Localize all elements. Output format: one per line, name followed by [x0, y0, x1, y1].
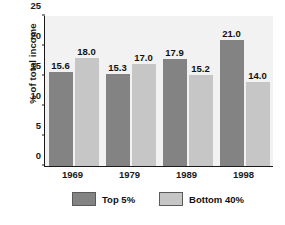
- x-tick-label: 1979: [105, 168, 155, 184]
- bar-wrapper: 21.0: [220, 16, 244, 166]
- plot-area: 0510152025 15.618.015.317.017.915.221.01…: [44, 16, 273, 167]
- legend-item[interactable]: Top 5%: [72, 192, 135, 206]
- bar-value-label: 15.3: [108, 62, 127, 73]
- bar-wrapper: 15.6: [49, 16, 73, 166]
- bar[interactable]: [75, 58, 99, 166]
- bar-group: 17.915.2: [163, 16, 213, 166]
- bar-wrapper: 17.0: [132, 16, 156, 166]
- bar-wrapper: 14.0: [246, 16, 270, 166]
- bar[interactable]: [163, 59, 187, 166]
- bar[interactable]: [49, 72, 73, 166]
- bar[interactable]: [220, 40, 244, 166]
- bar-value-label: 21.0: [222, 28, 241, 39]
- bar[interactable]: [106, 74, 130, 166]
- legend-swatch: [159, 192, 183, 206]
- bar[interactable]: [132, 64, 156, 166]
- bar-value-label: 17.9: [165, 47, 184, 58]
- y-tick-label: 20: [30, 30, 41, 41]
- y-tick-label: 5: [36, 120, 41, 131]
- bar-wrapper: 15.3: [106, 16, 130, 166]
- x-tick-label: 1998: [219, 168, 269, 184]
- bar-wrapper: 18.0: [75, 16, 99, 166]
- bar-group: 15.317.0: [106, 16, 156, 166]
- y-tick-label: 0: [36, 150, 41, 161]
- chart-legend: Top 5%Bottom 40%: [44, 192, 272, 206]
- legend-label: Bottom 40%: [189, 194, 244, 205]
- legend-item[interactable]: Bottom 40%: [159, 192, 244, 206]
- y-tick-label: 15: [30, 60, 41, 71]
- bar-value-label: 15.2: [191, 63, 210, 74]
- bar-value-label: 18.0: [77, 46, 96, 57]
- bar[interactable]: [189, 75, 213, 166]
- bar-value-label: 14.0: [248, 70, 267, 81]
- bar-value-label: 17.0: [134, 52, 153, 63]
- bar-groups: 15.618.015.317.017.915.221.014.0: [45, 16, 273, 166]
- y-tick-label: 10: [30, 90, 41, 101]
- y-tick-label: 25: [30, 0, 41, 11]
- chart-figure: % of total income 0510152025 15.618.015.…: [0, 0, 285, 225]
- x-tick-label: 1989: [162, 168, 212, 184]
- bar-wrapper: 15.2: [189, 16, 213, 166]
- bar[interactable]: [246, 82, 270, 166]
- legend-swatch: [72, 192, 96, 206]
- x-tick-label: 1969: [48, 168, 98, 184]
- bar-value-label: 15.6: [51, 60, 70, 71]
- bar-group: 15.618.0: [49, 16, 99, 166]
- legend-label: Top 5%: [102, 194, 135, 205]
- bar-group: 21.014.0: [220, 16, 270, 166]
- x-axis-ticks: 1969197919891998: [44, 168, 272, 184]
- bar-wrapper: 17.9: [163, 16, 187, 166]
